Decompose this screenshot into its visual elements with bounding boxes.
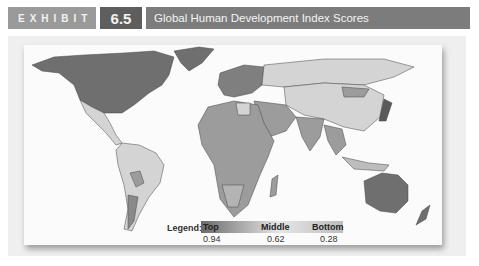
region-indonesia (342, 157, 389, 171)
region-europe (218, 65, 264, 97)
legend-label: Legend: (167, 223, 202, 233)
legend-top-label: Top (203, 222, 219, 232)
exhibit-label: EXHIBIT (8, 7, 96, 29)
region-southeast-asia (324, 125, 346, 155)
world-map-svg (24, 45, 442, 245)
legend-bottom-label: Bottom (312, 222, 344, 232)
region-russia (262, 59, 414, 87)
legend-bottom-value: 0.28 (320, 234, 338, 244)
region-new-zealand (416, 205, 430, 225)
region-south-america (116, 143, 164, 231)
region-north-africa-light (236, 103, 250, 115)
exhibit-title: Global Human Development Index Scores (146, 7, 470, 29)
exhibit-number: 6.5 (100, 7, 142, 29)
region-australia (364, 173, 408, 213)
region-mongolia (342, 87, 369, 97)
exhibit-header: EXHIBIT 6.5 Global Human Development Ind… (8, 7, 470, 29)
legend-middle-label: Middle (261, 222, 290, 232)
region-north-america (32, 51, 174, 113)
region-india (296, 117, 324, 151)
region-greenland (174, 47, 214, 71)
legend-middle-value: 0.62 (267, 234, 285, 244)
world-map (24, 45, 442, 245)
legend-top-value: 0.94 (203, 234, 221, 244)
region-madagascar (270, 175, 278, 197)
